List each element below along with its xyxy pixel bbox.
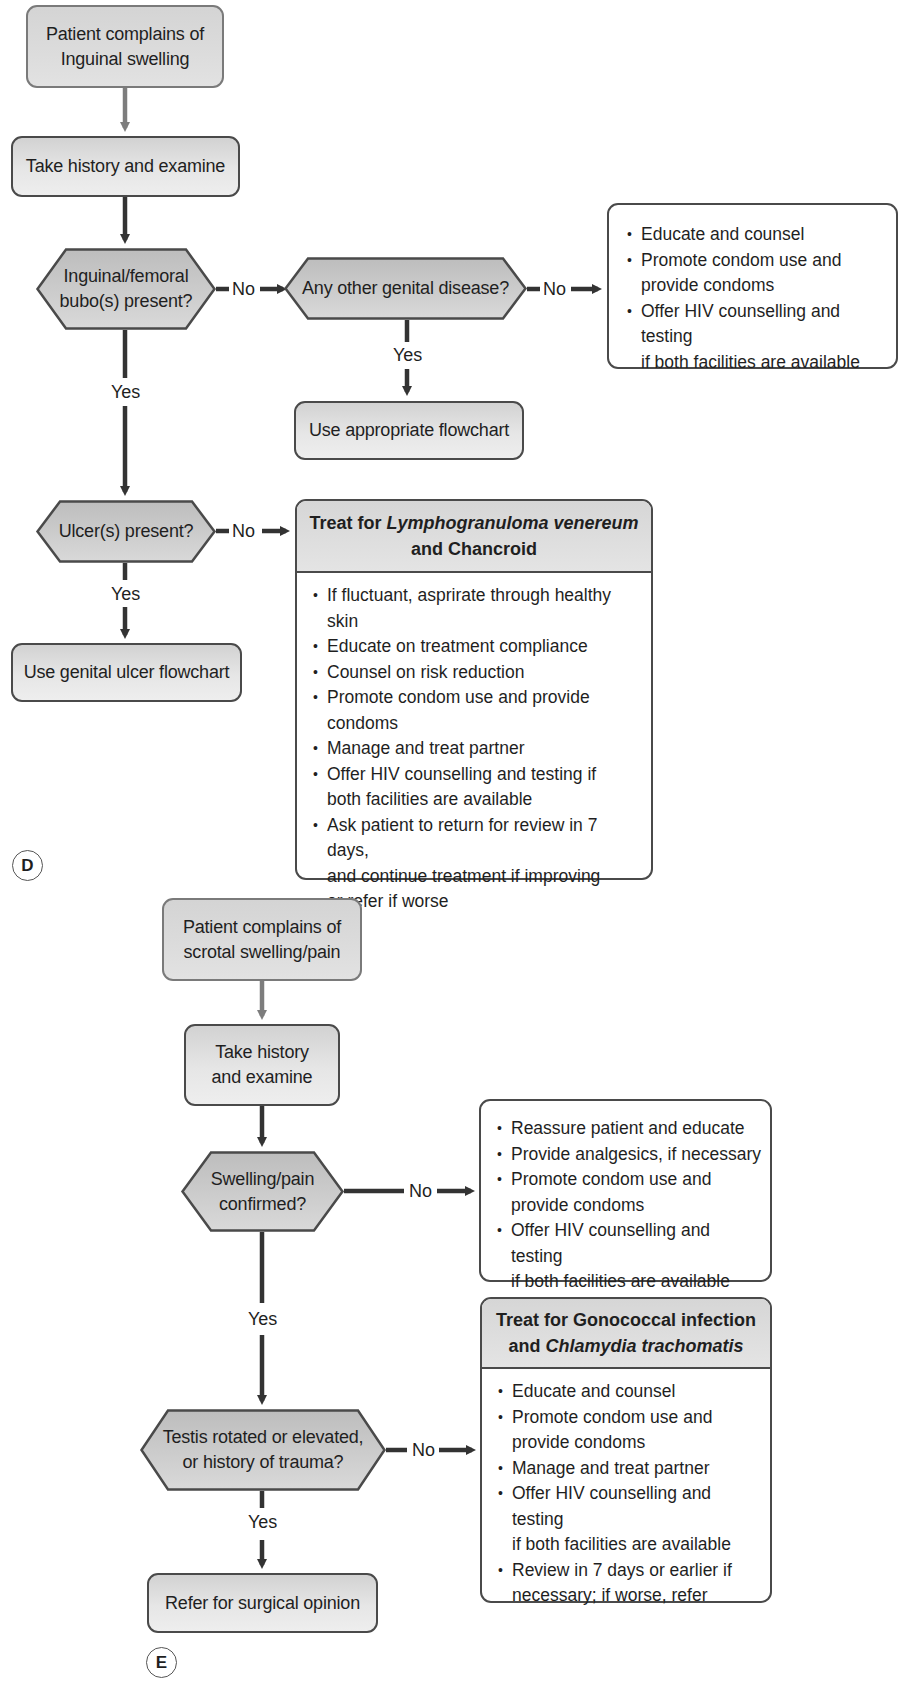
treat-item: Promote condom use andprovide condoms	[498, 1405, 762, 1456]
label-no: No	[406, 1181, 435, 1201]
decision-testis-line-2: or history of trauma?	[183, 1450, 344, 1475]
label-yes: Yes	[108, 382, 143, 402]
label-no: No	[409, 1440, 438, 1460]
treat-item: Manage and treat partner	[498, 1456, 762, 1482]
use-genital-ulcer-label: Use genital ulcer flowchart	[24, 660, 230, 685]
decision-testis-rotated: Testis rotated or elevated, or history o…	[140, 1409, 386, 1491]
reassure-box: Reassure patient and educate Provide ana…	[479, 1099, 772, 1282]
treat-item: Manage and treat partner	[313, 736, 643, 762]
treat-gonococcal-box: Treat for Gonococcal infection and Chlam…	[480, 1297, 772, 1603]
treat-item: Offer HIV counselling and testingif both…	[498, 1481, 762, 1558]
treat-gonococcal-list: Educate and counsel Promote condom use a…	[482, 1369, 770, 1609]
treat-item: If fluctuant, asprirate through healthy …	[313, 583, 643, 634]
counsel-item: Promote condom use andprovide condoms	[627, 248, 886, 299]
label-no: No	[540, 279, 569, 299]
start-node-line-2: scrotal swelling/pain	[184, 940, 341, 965]
decision-swelling-line-1: Swelling/pain	[211, 1167, 314, 1192]
treat-lgv-header: Treat for Lymphogranuloma venereum and C…	[297, 501, 651, 573]
decision-other-genital-disease: Any other genital disease?	[284, 257, 527, 320]
treat-item: Promote condom use and providecondoms	[313, 685, 643, 736]
label-yes: Yes	[390, 345, 425, 365]
counsel-item: Educate and counsel	[627, 222, 886, 248]
take-history-line-1: Take history	[215, 1040, 309, 1065]
reassure-item: Offer HIV counselling and testingif both…	[497, 1218, 762, 1295]
counsel-item: Offer HIV counselling and testingif both…	[627, 299, 886, 376]
counsel-list: Educate and counsel Promote condom use a…	[627, 222, 886, 375]
label-yes: Yes	[108, 584, 143, 604]
take-history-label: Take history and examine	[26, 154, 225, 179]
take-history-line-2: and examine	[212, 1065, 313, 1090]
start-node-scrotal-swelling: Patient complains of scrotal swelling/pa…	[162, 898, 362, 981]
start-node-line-1: Patient complains of	[46, 22, 204, 47]
treat-item: Educate and counsel	[498, 1379, 762, 1405]
decision-bubo-line-2: bubo(s) present?	[60, 289, 193, 314]
treat-lgv-chancroid-box: Treat for Lymphogranuloma venereum and C…	[295, 499, 653, 880]
reassure-list: Reassure patient and educate Provide ana…	[497, 1116, 762, 1295]
panel-label-d: D	[12, 850, 43, 881]
start-node-inguinal-swelling: Patient complains of Inguinal swelling	[26, 5, 224, 88]
reassure-item: Promote condom use andprovide condoms	[497, 1167, 762, 1218]
treat-lgv-list: If fluctuant, asprirate through healthy …	[297, 573, 651, 915]
use-appropriate-flowchart-label: Use appropriate flowchart	[309, 418, 509, 443]
decision-swelling-confirmed: Swelling/pain confirmed?	[181, 1151, 344, 1232]
decision-other-label: Any other genital disease?	[302, 276, 509, 301]
counsel-box: Educate and counsel Promote condom use a…	[607, 203, 898, 369]
treat-item: Counsel on risk reduction	[313, 660, 643, 686]
decision-bubo-line-1: Inguinal/femoral	[64, 264, 189, 289]
start-node-line-2: Inguinal swelling	[61, 47, 190, 72]
start-node-line-1: Patient complains of	[183, 915, 341, 940]
treat-item: Ask patient to return for review in 7 da…	[313, 813, 643, 915]
use-appropriate-flowchart-node: Use appropriate flowchart	[294, 401, 524, 460]
label-no: No	[229, 521, 258, 541]
take-history-node: Take history and examine	[11, 136, 240, 197]
decision-testis-line-1: Testis rotated or elevated,	[163, 1425, 364, 1450]
treat-item: Offer HIV counselling and testing ifboth…	[313, 762, 643, 813]
decision-ulcer-label: Ulcer(s) present?	[59, 519, 194, 544]
decision-ulcer-present: Ulcer(s) present?	[36, 500, 216, 563]
decision-bubo-present: Inguinal/femoral bubo(s) present?	[36, 248, 216, 330]
panel-label-e: E	[146, 1647, 177, 1678]
reassure-item: Reassure patient and educate	[497, 1116, 762, 1142]
take-history-node: Take history and examine	[184, 1024, 340, 1106]
treat-item: Review in 7 days or earlier ifnecessary;…	[498, 1558, 762, 1609]
label-no: No	[229, 279, 258, 299]
reassure-item: Provide analgesics, if necessary	[497, 1142, 762, 1168]
label-yes: Yes	[245, 1309, 280, 1329]
label-yes: Yes	[245, 1512, 280, 1532]
treat-gonococcal-header: Treat for Gonococcal infection and Chlam…	[482, 1299, 770, 1369]
treat-item: Educate on treatment compliance	[313, 634, 643, 660]
decision-swelling-line-2: confirmed?	[219, 1192, 306, 1217]
use-genital-ulcer-flowchart-node: Use genital ulcer flowchart	[11, 643, 242, 702]
refer-surgical-label: Refer for surgical opinion	[165, 1591, 360, 1616]
refer-surgical-opinion-node: Refer for surgical opinion	[147, 1573, 378, 1633]
